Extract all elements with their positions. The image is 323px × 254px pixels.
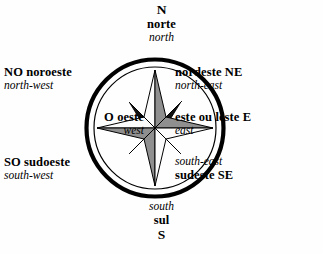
label-west: O oeste west	[4, 110, 144, 137]
label-east-native: este ou leste E	[175, 110, 319, 124]
label-north-foreign: north	[0, 31, 323, 44]
label-west-native: O oeste	[4, 110, 144, 124]
compass-rose-diagram: N norte north NO noroeste north-west O o…	[0, 0, 323, 254]
label-northeast-native: nordeste NE	[175, 65, 319, 79]
label-southeast-foreign: south-east	[175, 155, 319, 168]
label-northwest: NO noroeste north-west	[4, 65, 152, 92]
label-west-foreign: west	[4, 124, 144, 137]
label-northeast: nordeste NE north-east	[175, 65, 319, 92]
label-southeast-native: sudeste SE	[175, 168, 319, 182]
label-south-abbr: S	[0, 227, 323, 242]
label-east-foreign: east	[175, 124, 319, 137]
label-north: N norte north	[0, 2, 323, 44]
label-south-native: sul	[0, 213, 323, 227]
label-southwest: SO sudoeste south-west	[4, 155, 152, 182]
label-north-native: norte	[0, 17, 323, 31]
label-east: este ou leste E east	[175, 110, 319, 137]
label-northeast-foreign: north-east	[175, 79, 319, 92]
label-southeast: south-east sudeste SE	[175, 155, 319, 182]
label-north-abbr: N	[0, 2, 323, 17]
label-southwest-native: SO sudoeste	[4, 155, 152, 169]
label-northwest-native: NO noroeste	[4, 65, 152, 79]
label-northwest-foreign: north-west	[4, 79, 152, 92]
label-south: south sul S	[0, 200, 323, 242]
label-south-foreign: south	[0, 200, 323, 213]
label-southwest-foreign: south-west	[4, 169, 152, 182]
